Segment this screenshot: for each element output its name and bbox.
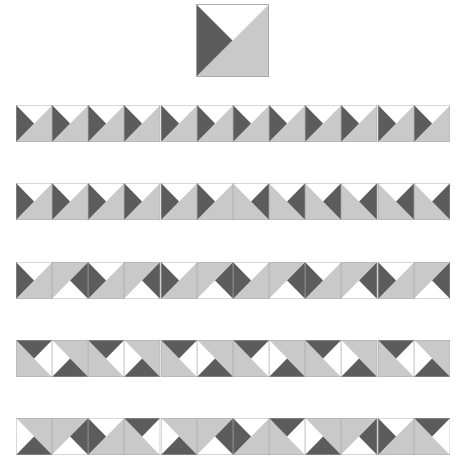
tile-r0 xyxy=(88,105,124,142)
tile-r0 xyxy=(52,183,88,220)
tile-mx xyxy=(378,183,414,220)
tile-r0 xyxy=(52,105,88,142)
row-2-half-mirrored xyxy=(16,183,450,220)
tile-r0 xyxy=(305,105,341,142)
tile-r180 xyxy=(341,418,377,455)
tile-r0 xyxy=(378,262,414,299)
tile-r180 xyxy=(269,262,305,299)
tile-r0 xyxy=(233,418,269,455)
tile-r270 xyxy=(305,418,341,455)
tile-mx xyxy=(233,183,269,220)
tile-r90 xyxy=(88,340,124,377)
tile-r0 xyxy=(161,262,197,299)
tile-r0 xyxy=(161,183,197,220)
tile-r0 xyxy=(88,183,124,220)
tile-r90 xyxy=(16,340,52,377)
tile-r90 xyxy=(305,340,341,377)
tile-r270 xyxy=(341,340,377,377)
tile-r90 xyxy=(161,340,197,377)
tile-r0 xyxy=(233,105,269,142)
tile-r0 xyxy=(161,105,197,142)
tile-mx xyxy=(414,183,450,220)
tile-r90 xyxy=(124,418,160,455)
tile-r180 xyxy=(414,262,450,299)
row-4-alternate-90-270 xyxy=(16,340,450,377)
tile-r0 xyxy=(197,105,233,142)
tile-mx xyxy=(305,183,341,220)
tile-r0 xyxy=(16,105,52,142)
tile-r270 xyxy=(16,418,52,455)
tile-r270 xyxy=(269,340,305,377)
tile-r90 xyxy=(414,418,450,455)
tile-r0 xyxy=(378,105,414,142)
tile-r180 xyxy=(124,262,160,299)
tile-r0 xyxy=(233,262,269,299)
row-5-rotation-cycle xyxy=(16,418,450,455)
tile-r90 xyxy=(378,340,414,377)
tile-r0 xyxy=(378,418,414,455)
tile-r0 xyxy=(269,105,305,142)
tile-r270 xyxy=(414,340,450,377)
tile-r0 xyxy=(341,105,377,142)
row-3-alternate-180 xyxy=(16,262,450,299)
tile-r0 xyxy=(124,105,160,142)
tile-r0 xyxy=(305,262,341,299)
tile-r0 xyxy=(197,183,233,220)
tile-r270 xyxy=(124,340,160,377)
tile-r270 xyxy=(161,418,197,455)
tile-r180 xyxy=(341,262,377,299)
tile-r0 xyxy=(88,262,124,299)
tile-r180 xyxy=(52,262,88,299)
base-tile xyxy=(196,4,269,77)
tile-r180 xyxy=(52,418,88,455)
tile-r0 xyxy=(16,183,52,220)
tile-r0 xyxy=(16,262,52,299)
tile-r0 xyxy=(124,183,160,220)
tile-r270 xyxy=(197,340,233,377)
tile-r90 xyxy=(233,340,269,377)
tile-r0 xyxy=(88,418,124,455)
tile-mx xyxy=(341,183,377,220)
tile-r90 xyxy=(269,418,305,455)
tile-r0 xyxy=(414,105,450,142)
tile-mx xyxy=(269,183,305,220)
tile-r180 xyxy=(197,418,233,455)
row-1-all-same xyxy=(16,105,450,142)
tile-r270 xyxy=(52,340,88,377)
tile-r180 xyxy=(197,262,233,299)
